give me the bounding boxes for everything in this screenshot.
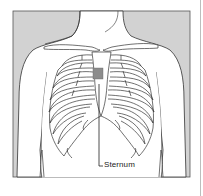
placement-marker — [93, 68, 103, 79]
chest-diagram: Sternum — [0, 0, 203, 196]
sternum-label: Sternum — [104, 160, 135, 169]
chest-illustration — [0, 0, 203, 196]
page-edge-divider — [200, 0, 201, 196]
